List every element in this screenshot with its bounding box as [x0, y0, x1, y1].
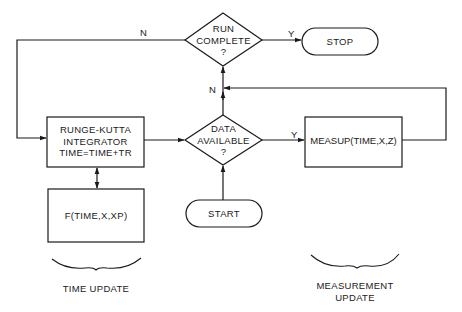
data-available-no-label: N	[209, 84, 216, 96]
measurement-update-line-1: MEASUREMENT	[305, 280, 405, 292]
run-complete-no-label: N	[140, 27, 147, 39]
time-update-label: TIME UPDATE	[46, 283, 146, 295]
run-complete-line-1: RUN	[185, 23, 262, 35]
data-available-line-2: AVAILABLE	[185, 135, 262, 147]
stop-label: STOP	[302, 36, 378, 48]
runge-kutta-line-2: INTEGRATOR	[47, 136, 144, 148]
time-update-brace	[52, 258, 141, 270]
data-available-line-3: ?	[185, 146, 262, 158]
f-function-label: F(TIME,X,XP)	[48, 210, 144, 222]
start-label: START	[186, 208, 262, 220]
measurement-update-brace	[311, 254, 399, 268]
runge-kutta-line-3: TIME=TIME+TR	[47, 147, 144, 159]
run-complete-line-2: COMPLETE	[185, 35, 262, 47]
run-complete-line-3: ?	[185, 46, 262, 58]
run-complete-label: RUN COMPLETE ?	[185, 23, 262, 58]
run-complete-yes-label: Y	[288, 28, 295, 40]
runge-kutta-label: RUNGE-KUTTA INTEGRATOR TIME=TIME+TR	[47, 124, 144, 159]
runge-kutta-line-1: RUNGE-KUTTA	[47, 124, 144, 136]
data-available-yes-label: Y	[291, 129, 298, 141]
data-available-label: DATA AVAILABLE ?	[185, 123, 262, 158]
measurement-update-label: MEASUREMENT UPDATE	[305, 280, 405, 303]
measup-label: MEASUP(TIME,X,Z)	[305, 135, 402, 147]
measurement-update-line-2: UPDATE	[305, 292, 405, 304]
data-available-line-1: DATA	[185, 123, 262, 135]
